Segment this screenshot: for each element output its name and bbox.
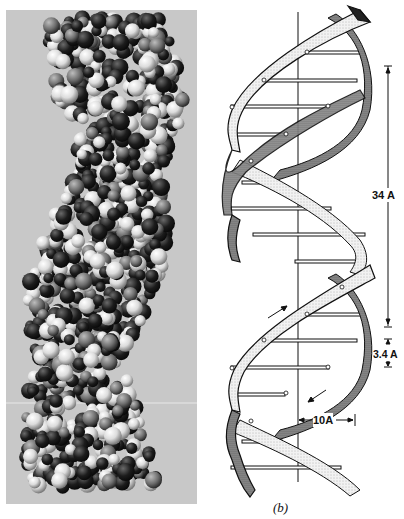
pitch-label: 34 A xyxy=(372,188,395,202)
radius-label: 10A xyxy=(313,413,333,427)
molecular-model-image xyxy=(6,10,197,504)
helix-drawing xyxy=(210,0,404,519)
strand-direction-arrow-down xyxy=(308,390,326,402)
strand-direction-arrow-up xyxy=(268,306,287,318)
figure-caption: (b) xyxy=(273,500,288,516)
rise-label: 3.4 A xyxy=(373,347,398,361)
dna-helix-schematic: 34 A 3.4 A 10A (b) xyxy=(210,0,404,519)
dna-space-filling-model-photo xyxy=(6,10,197,504)
